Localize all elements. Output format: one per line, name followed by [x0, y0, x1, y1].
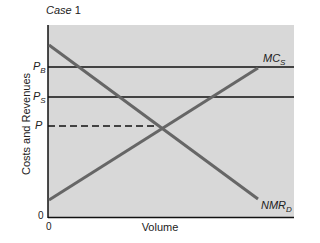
x-origin-label: 0: [46, 221, 52, 232]
x-axis-label: Volume: [120, 221, 200, 233]
y-axis-label: Costs and Revenues: [20, 64, 32, 184]
y-origin-label: 0: [38, 210, 44, 221]
nmrd-label: NMRD: [261, 199, 292, 214]
tick-p: P: [35, 119, 42, 131]
mcs-label: MCS: [263, 52, 285, 67]
tick-ps: PS: [33, 90, 46, 105]
tick-pb: PB: [33, 60, 46, 75]
